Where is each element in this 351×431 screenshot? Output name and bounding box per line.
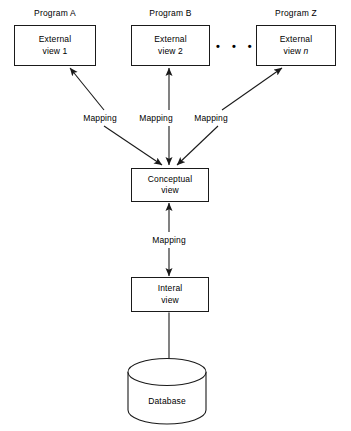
external-view-1-line1: External <box>39 34 71 46</box>
internal-view-line2: view <box>161 295 179 307</box>
database-label: Database <box>128 396 206 406</box>
mapping-label-z: Mapping <box>183 113 239 123</box>
database-cylinder <box>128 359 206 425</box>
external-view-1-line2: view 1 <box>43 46 68 58</box>
external-view-2-line1: External <box>154 34 186 46</box>
arrow-mapping-a-to-external-1 <box>70 68 104 110</box>
conceptual-view-line1: Conceptual <box>148 174 193 186</box>
mapping-label-middle: Mapping <box>141 235 197 245</box>
internal-view-line1: Interal <box>158 283 183 295</box>
internal-view-box[interactable]: Interal view <box>131 277 209 312</box>
program-label-b: Program B <box>131 8 210 18</box>
mapping-label-b: Mapping <box>128 113 184 123</box>
arrow-mapping-z-to-external-n <box>222 68 282 110</box>
external-view-1-box[interactable]: External view 1 <box>14 25 96 66</box>
external-view-n-box[interactable]: External view n <box>256 25 336 66</box>
program-label-a: Program A <box>14 8 96 18</box>
ellipsis-indicator: • • • <box>216 41 250 51</box>
external-view-n-line2-text: view <box>283 46 303 56</box>
program-label-z: Program Z <box>256 8 336 18</box>
conceptual-view-line2: view <box>161 185 179 197</box>
mapping-label-a: Mapping <box>72 113 128 123</box>
external-view-2-line2: view 2 <box>158 46 183 58</box>
arrow-mapping-a-to-conceptual <box>104 126 162 165</box>
external-view-n-line2: view n <box>283 46 308 58</box>
external-view-n-line1: External <box>280 34 312 46</box>
external-view-n-index: n <box>304 46 309 56</box>
external-view-2-box[interactable]: External view 2 <box>131 25 210 66</box>
arrow-mapping-z-to-conceptual <box>177 126 218 165</box>
diagram-canvas: Program A Program B Program Z External v… <box>0 0 351 431</box>
conceptual-view-box[interactable]: Conceptual view <box>131 168 209 202</box>
